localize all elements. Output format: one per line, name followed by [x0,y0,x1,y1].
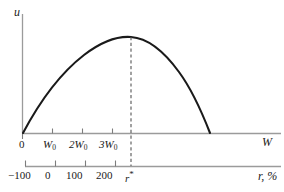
w-tick-label-0: 0 [19,139,25,150]
x-axis-ticks-r [26,161,116,167]
w-tick-2-sub: 0 [84,143,88,152]
chart-canvas [0,0,284,192]
r-star-label: r* [125,170,134,184]
w-tick-1-base: W [43,138,52,150]
utility-curve [23,37,210,133]
w-tick-3-sub: 0 [114,143,118,152]
w-tick-label-3: 3W0 [99,139,117,150]
w-tick-label-2: 2W0 [69,139,87,150]
x-axis-label-r: r, % [258,170,277,182]
r-tick-label-2: 100 [66,170,83,181]
w-tick-2-base: 2W [69,138,84,150]
w-tick-1-sub: 0 [52,143,56,152]
y-axis-label: u [14,6,20,18]
r-star-mark: * [129,169,134,179]
r-tick-label-3: 200 [96,170,113,181]
w-tick-label-1: W0 [43,139,56,150]
r-tick-label-1: 0 [45,170,51,181]
w-tick-3-base: 3W [99,138,114,150]
x-axis-label-w: W [262,136,272,148]
chart-figure: u W r, % 0 W0 2W0 3W0 −100 0 100 200 r* [0,0,284,192]
r-tick-label-0: −100 [8,170,31,181]
